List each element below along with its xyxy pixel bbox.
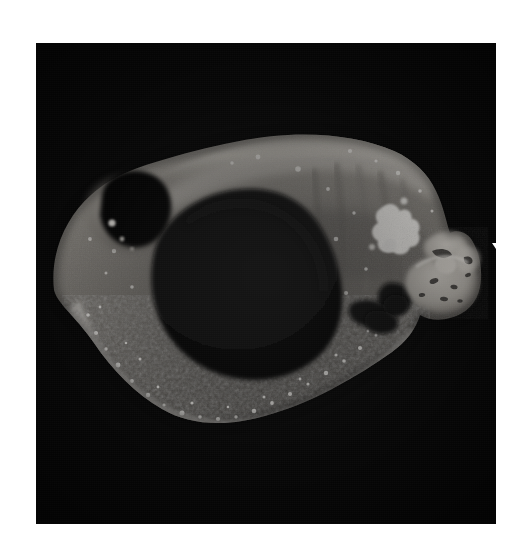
white-down-arrow-icon — [488, 211, 496, 269]
specimen-body — [36, 43, 496, 524]
figure-page — [0, 0, 530, 559]
specimen-illustration — [36, 43, 496, 524]
arrow-glyph — [488, 211, 496, 269]
specimen-photograph — [36, 43, 496, 524]
